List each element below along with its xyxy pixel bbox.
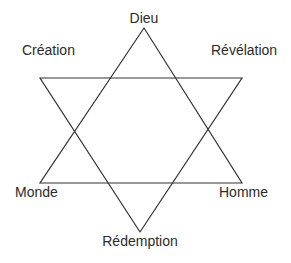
label-dieu: Dieu (130, 11, 159, 25)
label-redemption: Rédemption (102, 234, 178, 248)
downward-triangle (40, 78, 242, 232)
star-of-david-diagram (0, 0, 291, 263)
label-revelation: Révélation (211, 43, 277, 57)
label-homme: Homme (219, 185, 268, 199)
label-monde: Monde (15, 185, 58, 199)
label-creation: Création (22, 43, 75, 57)
